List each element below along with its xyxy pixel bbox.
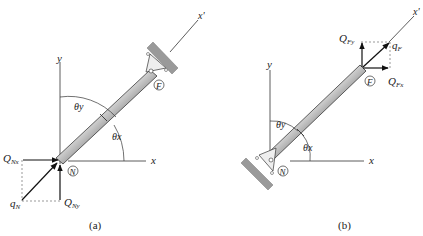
node-f-label-b: F <box>366 77 373 87</box>
panel-b: y x x' N F θy θx <box>241 6 420 232</box>
member-bar-b <box>268 65 366 159</box>
caption-a: (a) <box>89 219 102 232</box>
theta-y-label-b: θy <box>276 119 286 130</box>
node-n-label-b: N <box>279 167 287 177</box>
node-f-label-a: F <box>155 81 162 91</box>
y-axis-label-a: y <box>56 52 62 64</box>
caption-b: (b) <box>338 219 351 232</box>
resultant-qn-label: qN <box>10 197 21 211</box>
theta-x-label-b: θx <box>303 142 313 153</box>
theta-x-label-a: θx <box>112 131 122 142</box>
member-bar-a <box>56 70 157 164</box>
force-qfx-label: QFx <box>388 75 404 89</box>
xprime-axis-label-a: x' <box>197 10 205 21</box>
pin-support-n-b <box>241 148 276 190</box>
xprime-axis-label-b: x' <box>412 6 420 17</box>
resultant-qf-arrow <box>363 43 389 67</box>
y-axis-label-b: y <box>266 58 272 70</box>
resultant-qf-label: qF <box>392 39 403 53</box>
resultant-qn-arrow <box>22 163 57 200</box>
x-axis-label-b: x <box>368 154 374 166</box>
force-qnx-label: QNx <box>3 152 20 166</box>
x-axis-label-a: x <box>150 154 156 166</box>
truss-member-force-diagram: y x x' F N θy θx <box>0 0 423 236</box>
xprime-axis-a <box>170 20 198 52</box>
node-n-label-a: N <box>69 167 77 177</box>
force-qfy-label: QFy <box>339 32 355 46</box>
theta-y-label-a: θy <box>74 101 84 112</box>
diagram-canvas: y x x' F N θy θx <box>0 0 423 236</box>
pin-support-f-a <box>146 42 178 74</box>
panel-a: y x x' F N θy θx <box>3 10 205 232</box>
force-qny-label: QNy <box>64 196 81 210</box>
